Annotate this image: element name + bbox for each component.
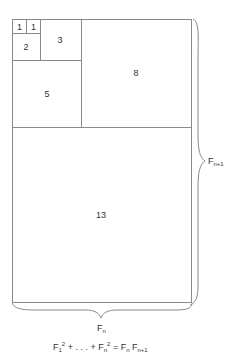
fibonacci-diagram: 1 1 2 3 5 8 13 Fn+1 Fn F12 + . . . + Fn2…: [0, 0, 238, 361]
square-label-5: 5: [44, 89, 49, 99]
square-label-2: 2: [23, 42, 28, 52]
square-label-13: 13: [96, 210, 106, 220]
right-brace: [190, 19, 205, 305]
identity-formula: F12 + . . . + Fn2 = Fn Fn+1: [53, 341, 148, 353]
square-label-8: 8: [133, 68, 138, 78]
width-label: Fn: [97, 323, 106, 334]
square-label-1a: 1: [17, 22, 22, 32]
height-label: Fn+1: [208, 156, 224, 167]
bottom-brace: [12, 303, 192, 318]
square-label-1b: 1: [31, 22, 36, 32]
square-label-3: 3: [57, 35, 62, 45]
outer-rectangle: [13, 20, 192, 303]
